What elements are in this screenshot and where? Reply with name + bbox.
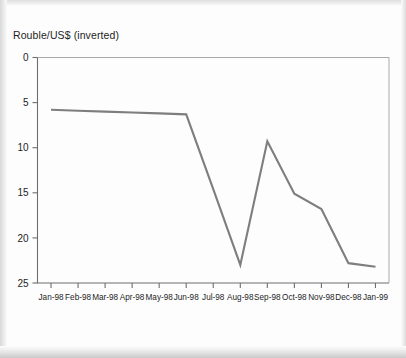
x-tick-label: Jun-98 [174,293,199,302]
data-series-group [51,110,375,267]
line-chart: 0510152025 Jan-98Feb-98Mar-98Apr-98May-9… [0,0,406,358]
y-tick-label: 20 [17,233,29,244]
x-tick-label: Sep-98 [254,293,281,302]
x-tick-label: Aug-98 [227,293,254,302]
data-line-rouble-usd [51,110,375,267]
x-tick-label: Oct-98 [282,293,307,302]
x-tick-label: Feb-98 [65,293,91,302]
y-tick-label: 5 [23,97,29,108]
y-axis-ticks: 0510152025 [17,52,37,289]
x-tick-label: Jan-99 [363,293,388,302]
x-tick-label: May-98 [146,293,174,302]
y-tick-label: 25 [17,278,29,289]
chart-page: Rouble/US$ (inverted) 0510152025 Jan-98F… [0,0,406,358]
x-axis-ticks: Jan-98Feb-98Mar-98Apr-98May-98Jun-98Jul-… [38,283,388,302]
x-tick-label: Jan-98 [38,293,63,302]
x-tick-label: Nov-98 [308,293,335,302]
x-tick-label: Apr-98 [120,293,145,302]
y-tick-label: 10 [17,142,29,153]
x-tick-label: Jul-98 [202,293,225,302]
x-tick-label: Dec-98 [335,293,362,302]
y-tick-label: 0 [23,52,29,63]
y-tick-label: 15 [17,187,29,198]
x-tick-label: Mar-98 [92,293,118,302]
plot-frame [38,58,390,284]
